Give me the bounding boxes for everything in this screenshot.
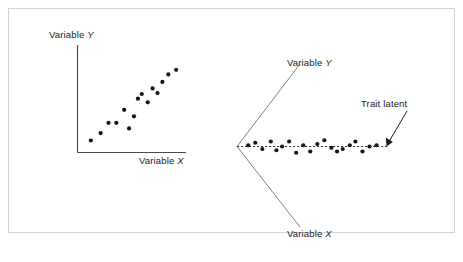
right-x-axis [237, 147, 300, 228]
trait-latent-arrow [386, 111, 407, 147]
data-point [335, 149, 339, 153]
data-point [301, 143, 305, 147]
data-point [287, 139, 291, 143]
left-panel-points [89, 68, 178, 143]
data-point [160, 80, 164, 84]
figure-container: Variable Y Variable X Variable Y Variabl… [0, 0, 463, 262]
data-point [260, 147, 264, 151]
data-point [308, 149, 312, 153]
right-x-axis-label: Variable X [287, 228, 332, 239]
data-point [174, 68, 178, 72]
data-point [246, 143, 250, 147]
data-point [353, 139, 357, 143]
data-point [294, 151, 298, 155]
data-point [151, 86, 155, 90]
data-point [155, 91, 159, 95]
left-panel-axes [78, 45, 187, 153]
data-point [106, 121, 110, 125]
data-point [89, 138, 93, 142]
data-point [348, 143, 352, 147]
data-point [122, 108, 126, 112]
data-point [136, 97, 140, 101]
data-point [132, 114, 136, 118]
data-point [140, 92, 144, 96]
data-point [280, 144, 284, 148]
data-point [253, 141, 257, 145]
right-y-axis [237, 64, 300, 147]
right-y-axis-label: Variable Y [287, 57, 332, 68]
data-point [315, 142, 319, 146]
data-point [99, 131, 103, 135]
data-point [329, 146, 333, 150]
data-point [360, 149, 364, 153]
data-point [274, 148, 278, 152]
data-point [269, 139, 273, 143]
trait-latent-label: Trait latent [361, 98, 407, 109]
data-point [146, 100, 150, 104]
data-point [166, 72, 170, 76]
left-x-axis-label: Variable X [139, 155, 184, 166]
data-point [367, 144, 371, 148]
left-y-axis-label: Variable Y [49, 29, 94, 40]
data-point [374, 143, 378, 147]
data-point [114, 121, 118, 125]
data-point [127, 126, 131, 130]
data-point [341, 147, 345, 151]
data-point [322, 138, 326, 142]
